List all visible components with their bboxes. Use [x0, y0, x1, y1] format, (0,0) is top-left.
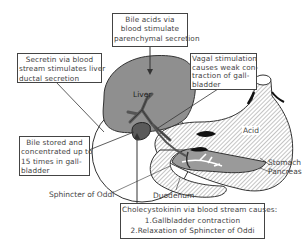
callout-text: 1.Gallbladder contraction — [122, 216, 263, 227]
callout-cholecystokinin: Cholecystokinin via blood stream causes:… — [120, 203, 265, 239]
label-liver: Liver — [133, 90, 151, 99]
callout-text: bladder — [21, 166, 88, 175]
callout-text: 15 times in gall- — [21, 157, 88, 166]
callout-text: Bile acids via — [114, 15, 186, 24]
leader-bile-stored — [89, 132, 134, 150]
label-acid: Acid — [242, 126, 260, 135]
callout-bile-stored: Bile stored and concentrated up to 15 ti… — [19, 136, 90, 176]
callout-text: ductal secretion — [19, 74, 100, 83]
leader-secretin — [56, 82, 104, 132]
callout-bile-acids: Bile acids via blood stimulate parenchym… — [112, 13, 188, 47]
callout-text: concentrated up to — [21, 147, 88, 156]
callout-text: parenchymal secretion — [114, 34, 186, 43]
label-sphincter-of-oddi: Sphincter of Oddi — [49, 190, 114, 199]
callout-text: Secretin via blood — [19, 55, 100, 64]
label-pancreas: Pancreas — [268, 167, 302, 176]
callout-text: stream stimulates liver — [19, 64, 100, 73]
callout-text: Bile stored and — [21, 138, 88, 147]
gallbladder — [132, 123, 150, 140]
callout-secretin: Secretin via blood stream stimulates liv… — [17, 53, 102, 83]
label-duodenum: Duodenum — [153, 191, 194, 200]
callout-text: blood stimulate — [114, 24, 186, 33]
callout-text: bladder — [192, 81, 255, 90]
callout-text: Cholecystokinin via blood stream causes: — [122, 205, 263, 216]
callout-text: 2.Relaxation of Sphincter of Oddi — [122, 226, 263, 237]
label-stomach: Stomach — [268, 158, 301, 167]
callout-vagal: Vagal stimulation causes weak con- tract… — [190, 53, 257, 90]
